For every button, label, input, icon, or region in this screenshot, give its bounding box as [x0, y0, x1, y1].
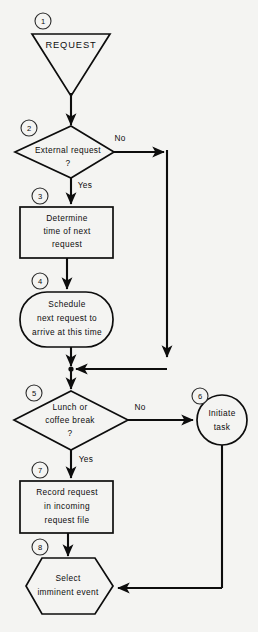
- step-badge-7: 7: [32, 462, 48, 478]
- step-badge-2: 2: [21, 120, 37, 136]
- step-badge-3: 3: [32, 188, 48, 204]
- initiate-task-line-2: task: [214, 422, 231, 432]
- external-request-decision-line-2: ?: [66, 158, 71, 168]
- node-record-request-process[interactable]: Record request in incoming request file: [20, 481, 113, 533]
- lunch-or-break-decision-line-1: Lunch or: [52, 402, 87, 412]
- node-request-input[interactable]: REQUEST: [32, 34, 110, 96]
- record-request-process-line-2: in incoming: [44, 501, 90, 511]
- node-schedule-next-request[interactable]: Schedule next request to arrive at this …: [20, 292, 113, 347]
- flowchart-canvas: REQUEST 1 External request ? 2 No Yes D: [0, 0, 258, 632]
- determine-time-process-line-1: Determine: [46, 213, 87, 223]
- schedule-next-request-line-3: arrive at this time: [32, 327, 102, 337]
- lunch-or-break-decision-line-2: coffee break: [45, 415, 95, 425]
- schedule-next-request-line-2: next request to: [37, 313, 97, 323]
- step-badge-8: 8: [32, 539, 48, 555]
- node-select-imminent-event[interactable]: Select imminent event: [26, 558, 113, 614]
- determine-time-process-line-3: request: [52, 239, 82, 249]
- request-input-label: REQUEST: [45, 40, 96, 50]
- step-badge-2-text: 2: [27, 124, 31, 133]
- decision-2-no-label: No: [114, 133, 125, 143]
- step-badge-4: 4: [32, 273, 48, 289]
- step-badge-7-text: 7: [38, 466, 42, 475]
- decision-5-yes-label: Yes: [79, 454, 93, 464]
- flowchart-page: REQUEST 1 External request ? 2 No Yes D: [0, 0, 258, 632]
- initiate-task-line-1: Initiate: [208, 408, 235, 418]
- step-badge-8-text: 8: [38, 543, 42, 552]
- schedule-next-request-line-1: Schedule: [48, 299, 85, 309]
- determine-time-process-line-2: time of next: [43, 226, 90, 236]
- step-badge-1-text: 1: [41, 17, 45, 26]
- step-badge-3-text: 3: [38, 192, 42, 201]
- external-request-decision-line-1: External request: [35, 145, 101, 155]
- step-badge-1: 1: [35, 13, 51, 29]
- lunch-or-break-decision-line-3: ?: [68, 428, 73, 438]
- select-imminent-event-shape: [26, 558, 113, 614]
- select-imminent-event-line-1: Select: [55, 573, 81, 583]
- select-imminent-event-line-2: imminent event: [37, 587, 99, 597]
- step-badge-5-text: 5: [32, 389, 36, 398]
- step-badge-6-text: 6: [198, 392, 202, 401]
- decision-2-yes-label: Yes: [78, 180, 92, 190]
- step-badge-5: 5: [26, 385, 42, 401]
- step-badge-4-text: 4: [38, 277, 42, 286]
- decision-5-no-label: No: [134, 402, 145, 412]
- node-determine-time-process[interactable]: Determine time of next request: [20, 207, 113, 258]
- step-badge-6: 6: [192, 388, 208, 404]
- record-request-process-line-3: request file: [45, 515, 90, 525]
- record-request-process-line-1: Record request: [36, 487, 98, 497]
